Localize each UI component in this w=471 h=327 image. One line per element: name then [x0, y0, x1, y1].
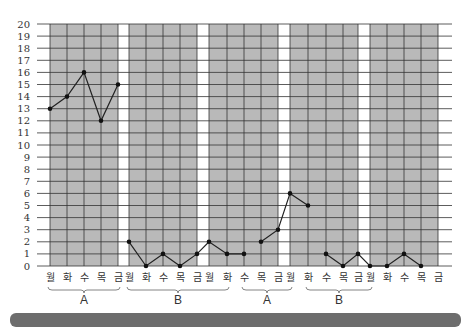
- data-point: [82, 70, 87, 75]
- data-point: [385, 264, 390, 269]
- data-point: [207, 240, 212, 245]
- data-point: [288, 191, 293, 196]
- y-tick-label: 6: [24, 188, 30, 199]
- y-tick-label: 8: [24, 164, 30, 175]
- x-tick-label: 금: [354, 272, 363, 283]
- y-axis-ticks: 01234567891011121314151617181920: [17, 19, 30, 272]
- y-tick-label: 17: [17, 55, 30, 66]
- data-point: [225, 252, 230, 257]
- data-point: [368, 264, 373, 269]
- x-axis-labels: 월화수목금월화수목금월화수목금월화수목금월화수목금: [46, 272, 443, 283]
- x-tick-label: 수: [400, 272, 409, 283]
- x-tick-label: 금: [193, 272, 202, 283]
- x-tick-label: 금: [434, 272, 443, 283]
- x-tick-label: 목: [417, 272, 426, 283]
- y-tick-label: 3: [24, 224, 30, 235]
- phase-label: A: [263, 293, 271, 307]
- x-tick-label: 화: [304, 272, 313, 283]
- y-tick-label: 13: [17, 103, 30, 114]
- data-point: [99, 119, 104, 124]
- x-tick-label: 월: [366, 272, 375, 283]
- x-tick-label: 금: [274, 272, 283, 283]
- data-point: [178, 264, 183, 269]
- x-tick-label: 금: [114, 272, 123, 283]
- x-tick-label: 화: [142, 272, 151, 283]
- data-point: [65, 94, 70, 99]
- data-point: [402, 252, 407, 257]
- data-point: [324, 252, 329, 257]
- y-tick-label: 1: [24, 248, 30, 259]
- data-point: [48, 106, 53, 111]
- y-tick-label: 12: [17, 115, 30, 126]
- horizontal-gridlines: [37, 24, 452, 266]
- x-tick-label: 목: [97, 272, 106, 283]
- y-tick-label: 4: [24, 212, 30, 223]
- data-point: [127, 240, 132, 245]
- x-tick-label: 월: [286, 272, 295, 283]
- y-tick-label: 10: [17, 140, 30, 151]
- x-tick-label: 목: [257, 272, 266, 283]
- bottom-bar: [10, 313, 461, 327]
- x-tick-label: 목: [339, 272, 348, 283]
- x-tick-label: 수: [159, 272, 168, 283]
- phase-braces: ABAB: [48, 287, 372, 307]
- y-tick-label: 5: [24, 200, 30, 211]
- data-point: [242, 252, 247, 257]
- phase-label: B: [335, 293, 343, 307]
- x-tick-label: 화: [63, 272, 72, 283]
- y-tick-label: 18: [17, 43, 30, 54]
- x-tick-label: 월: [125, 272, 134, 283]
- x-tick-label: 월: [46, 272, 55, 283]
- y-tick-label: 20: [17, 19, 30, 30]
- x-tick-label: 목: [176, 272, 185, 283]
- phase-label: B: [174, 293, 182, 307]
- y-tick-label: 19: [17, 31, 30, 42]
- x-tick-label: 수: [240, 272, 249, 283]
- data-point: [195, 252, 200, 257]
- data-point: [341, 264, 346, 269]
- x-tick-label: 수: [80, 272, 89, 283]
- data-point: [306, 203, 311, 208]
- data-point: [419, 264, 424, 269]
- data-point: [116, 82, 121, 87]
- y-tick-label: 7: [24, 176, 30, 187]
- data-point: [161, 252, 166, 257]
- y-tick-label: 15: [17, 79, 30, 90]
- x-tick-label: 화: [383, 272, 392, 283]
- x-tick-label: 월: [205, 272, 214, 283]
- data-point: [356, 252, 361, 257]
- data-point: [259, 240, 264, 245]
- y-tick-label: 14: [17, 91, 30, 102]
- x-tick-label: 화: [223, 272, 232, 283]
- data-point: [144, 264, 149, 269]
- y-tick-label: 0: [24, 261, 30, 272]
- phase-label: A: [80, 293, 88, 307]
- y-tick-label: 9: [24, 152, 30, 163]
- y-tick-label: 2: [24, 236, 30, 247]
- y-tick-label: 11: [17, 127, 30, 138]
- data-point: [276, 227, 281, 232]
- x-tick-label: 수: [322, 272, 331, 283]
- y-tick-label: 16: [17, 67, 30, 78]
